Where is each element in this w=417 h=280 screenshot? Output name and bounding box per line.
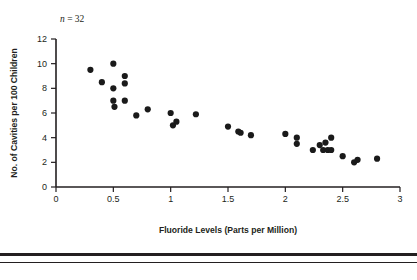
- y-tick-label: 4: [42, 133, 47, 143]
- scatter-point: [328, 135, 334, 141]
- y-tick-label: 12: [37, 34, 47, 44]
- scatter-point: [328, 147, 334, 153]
- scatter-point: [122, 80, 128, 86]
- scatter-point: [282, 131, 288, 137]
- scatter-point: [110, 85, 116, 91]
- figure-container: n = 32 024681012 00.511.522.53 No. of Ca…: [0, 0, 417, 280]
- x-axis-ticks: 00.511.522.53: [53, 187, 402, 204]
- sample-size-annotation: n = 32: [60, 14, 85, 24]
- scatter-point: [374, 156, 380, 162]
- scatter-point: [238, 130, 244, 136]
- scatter-point: [111, 104, 117, 110]
- scatter-point: [294, 141, 300, 147]
- x-tick-label: 3: [397, 194, 402, 204]
- scatter-point: [122, 73, 128, 79]
- y-tick-label: 10: [37, 59, 47, 69]
- x-tick-label: 0: [53, 194, 58, 204]
- data-points: [87, 61, 380, 166]
- x-tick-label: 1: [168, 194, 173, 204]
- axes: [56, 39, 400, 187]
- x-tick-label: 0.5: [107, 194, 120, 204]
- scatter-point: [122, 98, 128, 104]
- scatter-point: [87, 67, 93, 73]
- scatter-point: [310, 147, 316, 153]
- scatter-point: [322, 140, 328, 146]
- scatter-point: [110, 98, 116, 104]
- x-axis-title: Fluoride Levels (Parts per Million): [159, 225, 297, 235]
- scatter-point: [110, 61, 116, 67]
- scatter-point: [248, 132, 254, 138]
- scatter-point: [354, 157, 360, 163]
- scatter-point: [193, 111, 199, 117]
- scatter-point: [294, 135, 300, 141]
- scatter-point: [145, 106, 151, 112]
- y-axis-title: No. of Cavities per 100 Children: [9, 48, 19, 177]
- scatter-point: [340, 153, 346, 159]
- scatter-point: [133, 112, 139, 118]
- footer-rule-thin: [0, 262, 417, 263]
- x-tick-label: 2.5: [336, 194, 349, 204]
- scatter-point: [225, 123, 231, 129]
- scatter-plot: n = 32 024681012 00.511.522.53 No. of Ca…: [0, 0, 417, 250]
- footer-rule-thick: [0, 253, 417, 256]
- scatter-point: [168, 110, 174, 116]
- y-tick-label: 2: [42, 157, 47, 167]
- x-tick-label: 1.5: [222, 194, 235, 204]
- y-tick-label: 8: [42, 83, 47, 93]
- x-tick-label: 2: [283, 194, 288, 204]
- scatter-point: [173, 119, 179, 125]
- scatter-point: [99, 79, 105, 85]
- sample-size-label: n = 32: [60, 14, 85, 24]
- y-axis-ticks: 024681012: [37, 34, 56, 192]
- y-tick-label: 0: [42, 182, 47, 192]
- y-tick-label: 6: [42, 108, 47, 118]
